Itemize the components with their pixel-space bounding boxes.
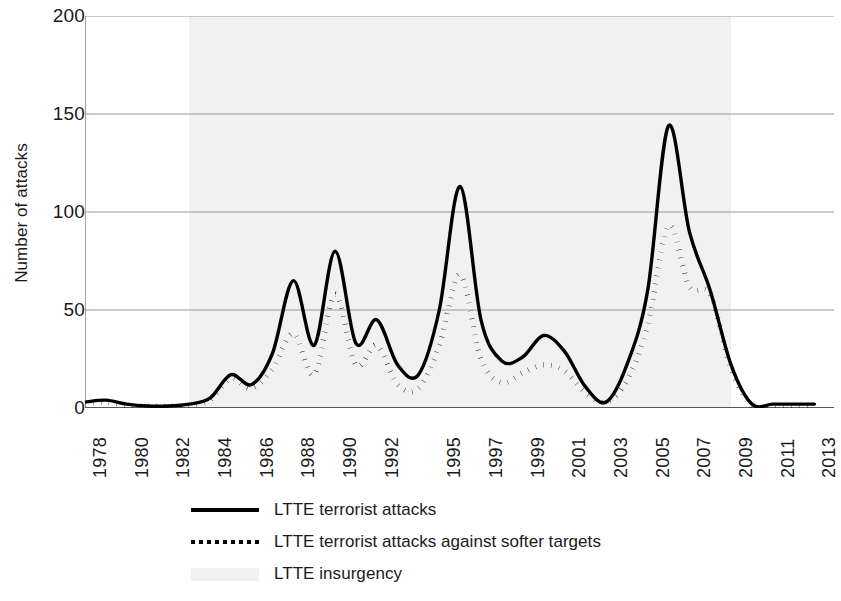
- y-axis-title: Number of attacks: [12, 103, 32, 323]
- x-tick-label: 1999: [529, 437, 547, 478]
- x-tick-label: 1988: [299, 437, 317, 478]
- legend-item-label: LTTE insurgency: [274, 564, 402, 584]
- x-tick-label: 1992: [383, 437, 401, 478]
- legend-item-terrorist-attacks: LTTE terrorist attacks: [186, 494, 826, 526]
- legend-item-label: LTTE terrorist attacks: [274, 500, 436, 520]
- plot-area: [85, 16, 834, 408]
- x-tick-label: 2009: [737, 437, 755, 478]
- x-tick-label: 1984: [216, 437, 234, 478]
- y-tick-label: 150: [35, 104, 85, 123]
- shaded-band-marker-icon: [186, 567, 264, 581]
- x-tick-label: 1982: [174, 437, 192, 478]
- x-tick-label: 2005: [654, 437, 672, 478]
- x-tick-label: 1986: [258, 437, 276, 478]
- legend-item-softer-targets: LTTE terrorist attacks against softer ta…: [186, 526, 826, 558]
- chart-figure: Number of attacks 200 150 100 50 0 19781…: [0, 0, 841, 601]
- x-tick-label: 2001: [570, 437, 588, 478]
- x-tick-label: 2013: [820, 437, 838, 478]
- x-tick-label: 1997: [487, 437, 505, 478]
- x-tick-label: 1980: [133, 437, 151, 478]
- x-axis-tick-labels: 1978198019821984198619881990199219951997…: [85, 414, 841, 494]
- solid-line-marker-icon: [186, 503, 264, 517]
- x-tick-label: 1990: [341, 437, 359, 478]
- x-tick-label: 2007: [695, 437, 713, 478]
- dotted-line-marker-icon: [186, 535, 264, 549]
- chart-canvas: [85, 16, 834, 408]
- y-tick-label: 200: [35, 6, 85, 25]
- y-tick-label: 0: [35, 398, 85, 417]
- x-tick-label: 2003: [612, 437, 630, 478]
- legend-item-insurgency: LTTE insurgency: [186, 558, 826, 590]
- y-tick-label: 100: [35, 202, 85, 221]
- x-tick-label: 2011: [779, 438, 797, 478]
- y-axis-tick-labels: 200 150 100 50 0: [33, 0, 85, 420]
- x-tick-label: 1995: [445, 437, 463, 478]
- chart-legend: LTTE terrorist attacks LTTE terrorist at…: [186, 494, 826, 590]
- x-tick-label: 1978: [91, 437, 109, 478]
- legend-item-label: LTTE terrorist attacks against softer ta…: [274, 532, 601, 552]
- y-tick-label: 50: [35, 300, 85, 319]
